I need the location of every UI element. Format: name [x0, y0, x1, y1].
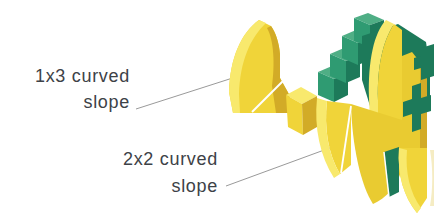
leader-line-1x3: [136, 75, 242, 109]
assembly-edge-faint-piece: [430, 150, 434, 206]
slope-assembly-render: [316, 13, 434, 213]
illustration-canvas: 1x3 curved slope 2x2 curved slope: [0, 0, 434, 223]
small-brick-render: [286, 87, 317, 135]
assembly-lower-right-curved-slope: [399, 148, 427, 213]
brick-illustration: [0, 0, 434, 223]
curved-slope-1x3-render: [229, 20, 290, 113]
